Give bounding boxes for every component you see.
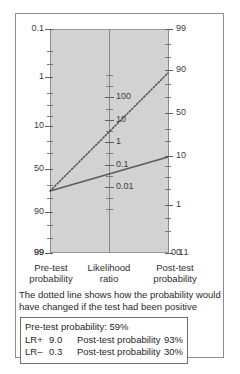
tick-likelihood-ratio-0 (106, 75, 113, 76)
tick-label-pre-test-probability-0.1: 0.1 (20, 24, 44, 33)
tick-likelihood-ratio-11 (106, 198, 113, 199)
caption-pre-test: Pre-test probability (18, 262, 84, 284)
result-lr-value: 0.3 (49, 346, 77, 359)
tick-pre-test-probability-8 (47, 141, 53, 142)
tick-post-test-probability-3 (165, 70, 173, 71)
tick-post-test-probability-12 (165, 189, 171, 190)
result-lr-value: 9.0 (49, 334, 77, 347)
tick-pre-test-probability-15 (47, 238, 53, 239)
tick-likelihood-ratio-7 (106, 153, 113, 154)
tick-pre-test-probability-0 (45, 29, 53, 30)
nomogram-figure: 0.1110509099 1001010.10.01 9990501010.1 … (15, 13, 224, 358)
tick-pre-test-probability-6 (47, 116, 53, 117)
tick-post-test-probability-8 (165, 141, 171, 142)
result-row: LR–0.3Post-test probability30% (25, 346, 183, 359)
tick-likelihood-ratio-10 (105, 187, 114, 188)
tick-pre-test-probability-2 (47, 64, 53, 65)
result-lr-rows: LR+9.0Post-test probability93%LR–0.3Post… (25, 334, 183, 359)
tick-label-likelihood-ratio-1: 1 (116, 137, 121, 146)
tick-label-post-test-probability-10: 10 (176, 151, 186, 160)
explanatory-note: The dotted line shows how the probabilit… (19, 289, 222, 313)
tick-likelihood-ratio-8 (105, 165, 114, 166)
caption-post-test: Post-test probability (136, 262, 214, 284)
tick-likelihood-ratio-2 (105, 97, 114, 98)
tick-likelihood-ratio-6 (105, 142, 114, 143)
nomogram-plot: 0.1110509099 1001010.10.01 9990501010.1 … (16, 14, 225, 259)
result-pretest-text: Pre-test probability: 59% (25, 321, 129, 334)
result-posttest-label: Post-test probability (77, 346, 164, 359)
tick-pre-test-probability-3 (45, 77, 53, 78)
tick-label-post-test-probability-50: 50 (176, 108, 186, 117)
tick-label-likelihood-ratio-10: 10 (116, 115, 126, 124)
tick-post-test-probability-0 (165, 29, 173, 30)
results-box: Pre-test probability: 59% LR+9.0Post-tes… (20, 317, 188, 364)
result-row: LR+9.0Post-test probability93% (25, 334, 183, 347)
tick-post-test-probability-11 (165, 177, 171, 178)
left-axis-end-label: 99 (34, 247, 44, 257)
tick-label-pre-test-probability-50: 50 (20, 164, 44, 173)
tick-likelihood-ratio-5 (106, 131, 113, 132)
tick-label-likelihood-ratio-0.1: 0.1 (116, 160, 129, 169)
tick-post-test-probability-5 (165, 97, 171, 98)
tick-likelihood-ratio-4 (105, 120, 114, 121)
tick-post-test-probability-1 (165, 44, 171, 45)
result-posttest-value: 30% (164, 346, 183, 359)
tick-post-test-probability-6 (165, 113, 173, 114)
tick-pre-test-probability-7 (45, 126, 53, 127)
tick-pre-test-probability-13 (45, 212, 53, 213)
tick-post-test-probability-14 (165, 218, 171, 219)
tick-label-post-test-probability-99: 99 (176, 24, 186, 33)
tick-post-test-probability-15 (165, 231, 171, 232)
tick-post-test-probability-4 (165, 84, 171, 85)
tick-pre-test-probability-14 (47, 225, 53, 226)
tick-label-pre-test-probability-1: 1 (20, 72, 44, 81)
caption-pre-test-line2: probability (18, 273, 84, 284)
tick-post-test-probability-9 (165, 156, 173, 157)
tick-label-pre-test-probability-10: 10 (20, 121, 44, 130)
caption-lr-line2: ratio (76, 273, 142, 284)
tick-pre-test-probability-12 (47, 198, 53, 199)
tick-pre-test-probability-5 (47, 105, 53, 106)
result-lr-label: LR– (25, 346, 49, 359)
caption-lr-line1: Likelihood (76, 262, 142, 273)
caption-post-test-line2: probability (136, 273, 214, 284)
tick-pre-test-probability-11 (47, 185, 53, 186)
tick-label-post-test-probability-90: 90 (176, 65, 186, 74)
tick-post-test-probability-10 (165, 166, 171, 167)
caption-pre-test-line1: Pre-test (18, 262, 84, 273)
result-posttest-label: Post-test probability (77, 334, 164, 347)
right-axis-end-label: 0.1 (171, 247, 184, 257)
result-pretest-row: Pre-test probability: 59% (25, 321, 183, 334)
tick-likelihood-ratio-1 (106, 86, 113, 87)
tick-pre-test-probability-1 (47, 51, 53, 52)
tick-label-pre-test-probability-90: 90 (20, 207, 44, 216)
caption-post-test-line1: Post-test (136, 262, 214, 273)
tick-post-test-probability-2 (165, 57, 171, 58)
axis-likelihood-ratio (109, 29, 110, 253)
tick-label-likelihood-ratio-0.01: 0.01 (116, 182, 134, 191)
tick-pre-test-probability-4 (47, 93, 53, 94)
tick-likelihood-ratio-3 (106, 109, 113, 110)
tick-label-likelihood-ratio-100: 100 (116, 92, 131, 101)
tick-likelihood-ratio-9 (106, 176, 113, 177)
result-posttest-value: 93% (164, 334, 183, 347)
tick-pre-test-probability-16 (45, 253, 53, 254)
caption-likelihood-ratio: Likelihood ratio (76, 262, 142, 284)
tick-likelihood-ratio-12 (106, 209, 113, 210)
tick-label-post-test-probability-1: 1 (176, 200, 181, 209)
result-lr-label: LR+ (25, 334, 49, 347)
tick-pre-test-probability-10 (45, 169, 53, 170)
tick-pre-test-probability-9 (47, 153, 53, 154)
tick-post-test-probability-7 (165, 129, 171, 130)
tick-post-test-probability-13 (165, 205, 173, 206)
